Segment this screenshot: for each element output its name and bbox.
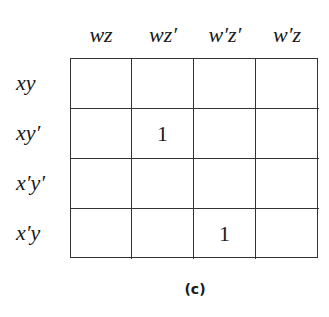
kmap-cell	[256, 109, 319, 159]
kmap-cell	[71, 59, 132, 109]
kmap-cell	[71, 109, 132, 159]
kmap-grid: 1 1	[70, 58, 318, 258]
kmap-cell	[71, 209, 132, 259]
row-label: xy	[16, 70, 66, 96]
kmap-cell: 1	[194, 209, 256, 259]
row-label: x′y	[16, 220, 66, 246]
column-label: w′z	[256, 22, 318, 48]
kmap-cell	[71, 159, 132, 209]
column-label: wz	[70, 22, 132, 48]
kmap-cell	[194, 159, 256, 209]
kmap-cell: 1	[132, 109, 194, 159]
figure-caption: (c)	[170, 281, 220, 297]
kmap-cell	[194, 109, 256, 159]
kmap-cell	[132, 59, 194, 109]
kmap-cell	[256, 159, 319, 209]
kmap-cell	[256, 59, 319, 109]
column-label: w′z′	[194, 22, 256, 48]
kmap-cell	[132, 209, 194, 259]
kmap-cell	[132, 159, 194, 209]
kmap-cell	[194, 59, 256, 109]
kmap-cell	[256, 209, 319, 259]
column-label: wz′	[132, 22, 194, 48]
row-label: x′y′	[16, 170, 66, 196]
row-label: xy′	[16, 120, 66, 146]
